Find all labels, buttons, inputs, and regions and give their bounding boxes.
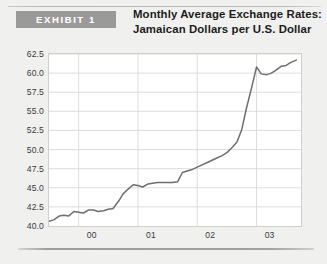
x-tick-label: 01 <box>146 230 156 240</box>
y-tick-label: 45.0 <box>0 183 44 193</box>
x-tick-label: 03 <box>265 230 275 240</box>
y-axis-labels: 40.042.545.047.550.052.555.057.560.062.5 <box>0 53 44 227</box>
x-tick-label: 00 <box>87 230 97 240</box>
y-tick-label: 40.0 <box>0 221 44 231</box>
exhibit-header: EXHIBIT 1 Monthly Average Exchange Rates… <box>0 0 327 44</box>
plot-inner <box>49 54 301 226</box>
y-tick-label: 62.5 <box>0 49 44 59</box>
y-tick-label: 57.5 <box>0 87 44 97</box>
y-tick-label: 50.0 <box>0 145 44 155</box>
y-tick-label: 52.5 <box>0 125 44 135</box>
exhibit-title-line2: Jamaican Dollars per U.S. Dollar <box>133 22 323 37</box>
bottom-divider <box>18 248 314 250</box>
series-line <box>49 60 296 221</box>
exchange-rate-line-series <box>49 54 301 226</box>
x-tick-label: 02 <box>205 230 215 240</box>
x-axis-labels: 00010203 <box>48 230 302 246</box>
exhibit-title-line1: Monthly Average Exchange Rates: <box>133 7 323 22</box>
exhibit-panel: EXHIBIT 1 Monthly Average Exchange Rates… <box>0 0 327 264</box>
exhibit-title: Monthly Average Exchange Rates: Jamaican… <box>133 7 323 36</box>
plot-frame <box>48 53 302 227</box>
y-tick-label: 60.0 <box>0 68 44 78</box>
y-tick-label: 47.5 <box>0 164 44 174</box>
y-tick-label: 55.0 <box>0 106 44 116</box>
chart-area: 40.042.545.047.550.052.555.057.560.062.5… <box>0 40 327 250</box>
y-tick-label: 42.5 <box>0 202 44 212</box>
exhibit-badge-label: EXHIBIT 1 <box>16 11 116 28</box>
exhibit-badge: EXHIBIT 1 <box>16 11 116 28</box>
